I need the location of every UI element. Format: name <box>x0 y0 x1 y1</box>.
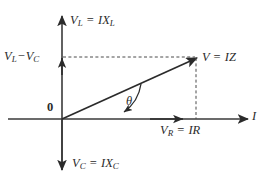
net-reactive-voltage-label: VL−VC <box>4 50 39 64</box>
capacitive-voltage-label: VC = IXC <box>72 157 119 171</box>
phasor-diagram-canvas <box>0 0 275 182</box>
resultant-voltage-vector <box>62 58 197 119</box>
origin-label: 0 <box>47 101 53 114</box>
resultant-voltage-label: V = IZ <box>202 51 236 64</box>
current-axis-label: I <box>252 110 256 123</box>
phase-angle-label: θ <box>126 95 132 108</box>
phasor-diagram-figure: VL = IXL VL−VC V = IZ VR = IR VC = IXC I… <box>0 0 275 182</box>
inductive-voltage-label: VL = IXL <box>70 14 115 28</box>
resistive-voltage-label: VR = IR <box>160 124 200 138</box>
